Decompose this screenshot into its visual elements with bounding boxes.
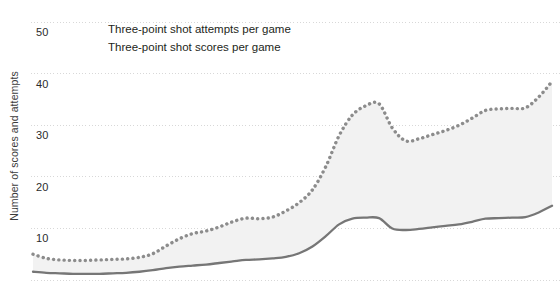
y-tick-label-40: 40	[36, 78, 49, 90]
legend-entry-scores: Three-point shot scores per game	[108, 38, 291, 56]
y-tick-label-30: 30	[36, 129, 49, 141]
legend-entry-attempts: Three-point shot attempts per game	[108, 20, 291, 38]
y-axis-title: Number of scores and attempts	[8, 46, 20, 246]
series-band-fill	[33, 82, 552, 274]
chart-container: Number of scores and attempts 50 40 30 2…	[0, 0, 560, 304]
y-tick-label-10: 10	[36, 232, 49, 244]
y-tick-label-50: 50	[36, 26, 49, 38]
chart-legend: Three-point shot attempts per game Three…	[108, 20, 291, 56]
y-tick-label-20: 20	[36, 181, 49, 193]
